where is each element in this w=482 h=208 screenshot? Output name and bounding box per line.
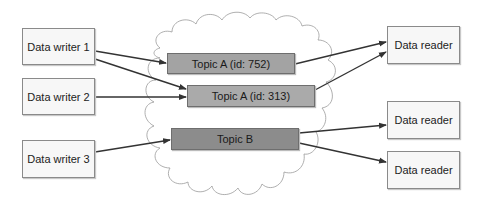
data-reader-1-label: Data reader [394, 39, 452, 51]
data-reader-3-label: Data reader [394, 164, 452, 176]
data-writer-1: Data writer 1 [22, 28, 95, 65]
data-writer-3-label: Data writer 3 [27, 153, 89, 165]
data-writer-3: Data writer 3 [22, 140, 95, 178]
topic-a-752: Topic A (id: 752) [167, 53, 295, 74]
topic-a-752-label: Topic A (id: 752) [192, 58, 270, 70]
data-reader-2: Data reader [387, 101, 460, 139]
topic-a-313-label: Topic A (id: 313) [212, 90, 290, 102]
data-reader-1: Data reader [387, 26, 460, 64]
data-writer-2-label: Data writer 2 [27, 91, 89, 103]
data-writer-2: Data writer 2 [22, 78, 95, 115]
data-writer-1-label: Data writer 1 [27, 41, 89, 53]
topic-b: Topic B [171, 128, 299, 150]
data-reader-3: Data reader [387, 151, 460, 189]
topic-b-label: Topic B [217, 133, 253, 145]
topic-a-313: Topic A (id: 313) [187, 85, 315, 107]
dds-diagram: Data writer 1 Data writer 2 Data writer … [0, 0, 482, 208]
data-reader-2-label: Data reader [394, 114, 452, 126]
